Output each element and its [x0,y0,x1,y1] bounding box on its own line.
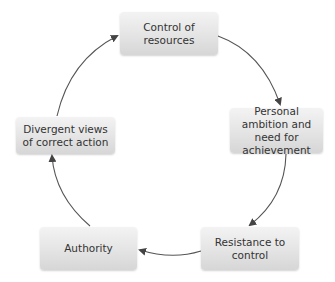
arrow-control-to-ambition [218,36,280,104]
arrow-resistance-to-authority [140,250,201,255]
node-personal-ambition: Personal ambition and need for achieveme… [230,108,323,153]
arrow-divergent-to-control [57,36,117,116]
node-label: Authority [64,242,113,255]
node-control-of-resources: Control of resources [120,12,218,55]
node-label: Resistance to control [205,236,295,262]
node-label: Control of resources [124,21,214,47]
node-resistance-to-control: Resistance to control [201,227,299,270]
node-divergent-views: Divergent views of correct action [16,117,115,154]
arrow-ambition-to-resistance [250,154,286,225]
arrow-authority-to-divergent [52,156,90,226]
node-label: Personal ambition and need for achieveme… [234,105,319,157]
cycle-diagram: Control of resources Personal ambition a… [0,0,335,282]
node-authority: Authority [40,227,137,270]
node-label: Divergent views of correct action [20,123,111,149]
